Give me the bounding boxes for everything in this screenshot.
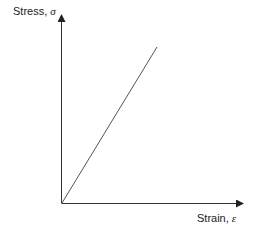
x-axis-label: Strain, ε bbox=[197, 212, 236, 224]
sigma-symbol: σ bbox=[50, 5, 55, 17]
epsilon-symbol: ε bbox=[232, 212, 236, 224]
y-axis-label: Stress, σ bbox=[13, 5, 56, 17]
y-axis-label-text: Stress, bbox=[13, 5, 50, 17]
x-axis-label-text: Strain, bbox=[197, 212, 232, 224]
linear-curve bbox=[62, 47, 157, 203]
stress-strain-diagram bbox=[0, 0, 257, 231]
